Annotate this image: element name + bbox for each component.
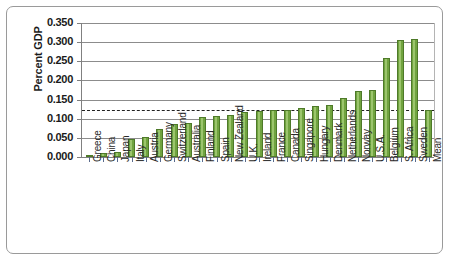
gridline — [82, 100, 434, 101]
x-axis-label: Canada — [290, 128, 301, 162]
x-axis-label: China — [106, 137, 117, 162]
y-axis-tick-mark — [77, 61, 82, 62]
chart-frame: Percent GDP 0.3500.3000.2500.2000.1500.1… — [6, 6, 443, 254]
y-axis-tick-label: 0.050 — [29, 131, 73, 143]
y-axis-tick-mark — [77, 119, 82, 120]
x-axis-label: Ireland — [262, 133, 273, 162]
x-axis-label: Spain — [220, 137, 231, 162]
y-axis-tick-label: 0.150 — [29, 93, 73, 105]
x-axis-label: Italy — [135, 145, 146, 162]
x-axis-label: Japan — [120, 136, 131, 162]
x-axis-label: Austria — [149, 132, 160, 162]
x-axis-label: S. Africa — [404, 127, 415, 162]
x-axis-label: New Zealand — [234, 105, 245, 162]
y-axis-tick-label: 0.000 — [29, 150, 73, 162]
x-axis-label: U.S.A. — [375, 134, 386, 162]
mean-reference-line — [82, 110, 434, 111]
y-axis-tick-label: 0.300 — [29, 35, 73, 47]
y-axis-tick-mark — [77, 100, 82, 101]
x-axis-label: Singapore — [304, 118, 315, 162]
x-axis-label: Switzerland — [177, 113, 188, 163]
y-axis-tick-label: 0.200 — [29, 73, 73, 85]
y-axis-tick-mark — [77, 23, 82, 24]
x-axis-label: Norway — [361, 129, 372, 162]
y-axis-tick-mark — [77, 42, 82, 43]
y-axis-tick-label: 0.100 — [29, 112, 73, 124]
y-axis-tick-label: 0.250 — [29, 54, 73, 66]
gridline — [82, 42, 434, 43]
x-axis-label: Greece — [92, 130, 103, 162]
x-axis-label: U.K. — [248, 143, 259, 162]
y-axis-tick-label: 0.350 — [29, 16, 73, 28]
x-axis-label: France — [276, 132, 287, 162]
x-axis-label: Germany — [163, 122, 174, 162]
y-axis-tick-mark — [77, 80, 82, 81]
x-axis-label: Netherlands — [347, 110, 358, 162]
x-axis-label: Finland — [205, 131, 216, 162]
x-axis-labels: GreeceChinaJapanItalyAustriaGermanySwitz… — [81, 162, 435, 254]
x-axis-label: Australia — [191, 125, 202, 162]
x-axis-label: Hungary — [319, 126, 330, 162]
x-axis-label: Sweden — [418, 127, 429, 162]
x-axis-label: Belgium — [389, 127, 400, 162]
y-axis-tick-mark — [77, 157, 82, 158]
x-axis-label: Mean — [432, 138, 443, 162]
gridline — [82, 23, 434, 24]
y-axis-tick-mark — [77, 138, 82, 139]
gridline — [82, 80, 434, 81]
x-axis-label: Denmark — [333, 123, 344, 162]
gridline — [82, 61, 434, 62]
